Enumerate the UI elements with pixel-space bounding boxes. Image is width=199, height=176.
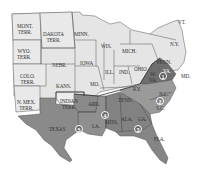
label-ga: GA.	[138, 117, 147, 123]
label-mo: MO.	[90, 82, 99, 88]
label-texas: TEXAS	[49, 127, 65, 133]
marker-1[interactable]: 1	[159, 72, 167, 80]
label-sc: S.C.	[156, 106, 165, 112]
marker-2[interactable]: 2	[156, 97, 164, 105]
label-nebr: NEBR.	[52, 63, 67, 69]
label-nmex-terr: N. MEX.TERR.	[17, 100, 35, 111]
label-ky: KY.	[133, 87, 141, 93]
label-ny: N.Y.	[170, 42, 179, 48]
marker-5[interactable]: 5	[75, 125, 83, 133]
label-indian-terr: INDIANTERR.	[60, 99, 78, 110]
label-penn: PENN.	[157, 60, 171, 66]
label-la: LA.	[92, 124, 100, 130]
label-minn: MINN.	[74, 32, 89, 38]
label-iowa: IOWA	[80, 61, 93, 67]
label-ill: ILL.	[105, 70, 114, 76]
label-dakota-terr: DAKOTATERR.	[43, 32, 64, 43]
label-ind: IND.	[119, 70, 129, 76]
marker-4[interactable]: 4	[101, 111, 109, 119]
label-miss: MISS.	[105, 120, 118, 126]
label-mont-terr: MONT.TERR.	[17, 24, 33, 35]
label-vt: VT.	[178, 20, 186, 26]
label-wis: WIS.	[101, 44, 111, 50]
label-colo-terr: COLO.TERR.	[20, 74, 35, 85]
label-tenn: TENN.	[118, 98, 133, 104]
label-ohio: OHIO	[134, 67, 147, 73]
label-md: MD.	[181, 74, 190, 80]
label-wyo-terr: WYO.TERR.	[17, 49, 31, 60]
label-ark: ARK.	[88, 102, 100, 108]
label-wva: W.VA.	[149, 72, 157, 83]
label-fla: FLA.	[154, 137, 165, 143]
label-kans: KANS.	[56, 84, 71, 90]
marker-3[interactable]: 3	[134, 125, 142, 133]
label-ala: ALA.	[121, 117, 133, 123]
label-mich: MICH.	[122, 49, 136, 55]
